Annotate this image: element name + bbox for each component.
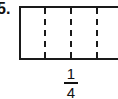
fraction-label: 1 4: [63, 66, 79, 98]
fraction-rectangle: [19, 6, 118, 60]
problem-number: 5.: [0, 1, 10, 17]
divider-line-2: [70, 8, 72, 58]
divider-line-1: [44, 8, 46, 58]
divider-line-3: [96, 8, 98, 58]
fraction-numerator: 1: [63, 66, 79, 81]
fraction-denominator: 4: [63, 85, 79, 99]
